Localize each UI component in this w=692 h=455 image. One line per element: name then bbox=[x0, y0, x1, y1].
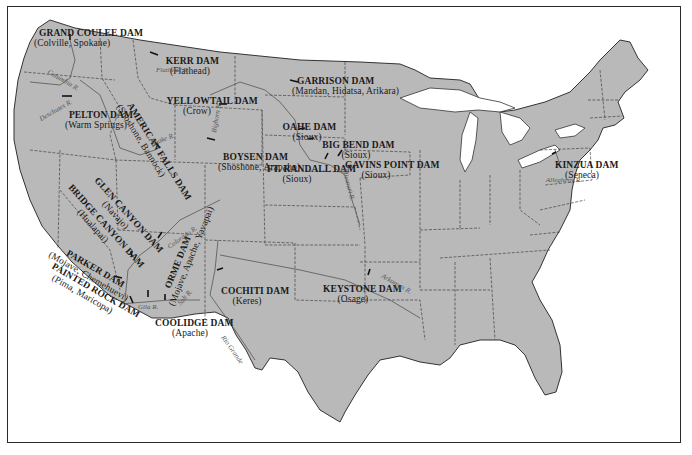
dam-name: COCHITI DAM bbox=[221, 286, 289, 296]
label-grand-coulee-dam: GRAND COULEE DAM(Colville, Spokane) bbox=[34, 18, 96, 58]
label-pelton-dam: PELTON DAM(Warm Springs) bbox=[64, 100, 128, 140]
dam-name: BIG BEND DAM bbox=[322, 140, 394, 150]
dam-tribes: (Osage) bbox=[318, 294, 388, 304]
dam-name: GAVINS POINT DAM bbox=[345, 160, 440, 170]
dam-name: PELTON DAM bbox=[69, 110, 133, 120]
dam-tribes: (Mandan, Hidatsa, Arikara) bbox=[292, 86, 352, 96]
dam-name: GRAND COULEE DAM bbox=[39, 28, 143, 38]
dam-name: COOLIDGE DAM bbox=[155, 318, 234, 328]
label-garrison-dam: GARRISON DAM(Mandan, Hidatsa, Arikara) bbox=[292, 66, 352, 106]
label-kinzua-dam: KINZUA DAM(Seneca) bbox=[550, 150, 614, 190]
river-label-gila: Gila R. bbox=[138, 303, 158, 311]
dam-tribes: (Keres) bbox=[216, 296, 278, 306]
dam-tribes: (Colville, Spokane) bbox=[34, 38, 96, 48]
label-cochiti-dam: COCHITI DAM(Keres) bbox=[216, 276, 278, 316]
dam-tribes: (Warm Springs) bbox=[64, 120, 128, 130]
river-label-allegheny: Allegheny R. bbox=[546, 176, 582, 184]
dam-name: KEYSTONE DAM bbox=[323, 284, 402, 294]
dam-name: YELLOWTAIL DAM bbox=[167, 96, 258, 106]
dam-name: KINZUA DAM bbox=[555, 160, 619, 170]
dam-name: GARRISON DAM bbox=[297, 76, 374, 86]
label-keystone-dam: KEYSTONE DAM(Osage) bbox=[318, 274, 388, 314]
dam-name: KERR DAM bbox=[166, 56, 219, 66]
label-ft-randall-dam: FT. RANDALL DAM(Sioux) bbox=[262, 154, 332, 194]
dam-tribes: (Apache) bbox=[150, 328, 230, 338]
dam-tribes: (Sioux) bbox=[262, 174, 332, 184]
river-label-flathead: Flathead R. bbox=[156, 66, 189, 74]
